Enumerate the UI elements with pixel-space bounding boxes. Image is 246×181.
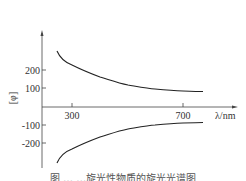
x-axis-arrow-icon [232,106,238,109]
y-tick-label-minus-100: -100 [22,120,40,131]
rotatory-dispersion-chart: 200 100 -100 -200 300 700 λ/nm [φ] [0,0,246,181]
y-ticks [42,70,46,143]
negative-curve [57,123,203,164]
x-axis-label: λ/nm [215,110,236,121]
positive-curve [57,51,203,92]
y-tick-label-200: 200 [25,65,40,76]
y-tick-label-minus-200: -200 [22,138,40,149]
x-tick-label-300: 300 [65,110,80,121]
x-ticks [72,103,183,107]
y-axis-label: [φ] [7,92,18,104]
figure-caption: 图 … …旋光性物质的旋光光谱图 [0,170,246,181]
y-axis-arrow-icon [41,30,44,36]
x-tick-label-700: 700 [176,110,191,121]
y-tick-label-100: 100 [25,83,40,94]
